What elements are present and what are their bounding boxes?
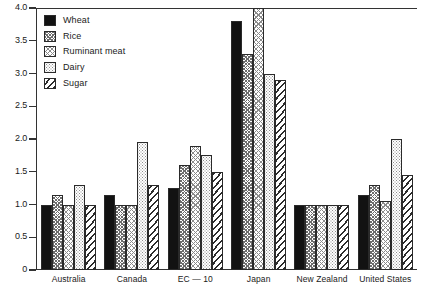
bar-group xyxy=(290,8,353,270)
y-tick-label: 2.0 xyxy=(15,132,27,145)
legend-label: Ruminant meat xyxy=(63,46,125,57)
bar-group-bars xyxy=(227,8,290,270)
x-axis-label: Japan xyxy=(227,274,290,285)
legend-swatch-ruminant-meat xyxy=(44,46,56,57)
y-tick-mark xyxy=(29,40,36,41)
bar-group xyxy=(354,8,417,270)
y-tick-mark xyxy=(29,73,36,74)
bar xyxy=(212,172,223,270)
y-tick-mark xyxy=(29,7,36,8)
bar-group xyxy=(227,8,290,270)
legend-item: Rice xyxy=(44,29,125,45)
bar xyxy=(137,142,148,270)
bar xyxy=(275,80,286,270)
y-tick-mark xyxy=(29,138,36,139)
y-tick-label: 0.5 xyxy=(15,230,27,243)
x-axis-label: New Zealand xyxy=(290,274,353,285)
bar xyxy=(380,201,391,270)
legend-label: Dairy xyxy=(63,62,85,73)
bar xyxy=(327,205,338,271)
bar xyxy=(74,185,85,270)
bar xyxy=(294,205,305,271)
bar xyxy=(253,8,264,270)
bar xyxy=(231,21,242,270)
y-tick-mark xyxy=(29,237,36,238)
bar-chart: 00.51.01.52.02.53.03.54.0 AustraliaCanad… xyxy=(0,0,421,291)
legend-label: Sugar xyxy=(63,78,88,89)
chart-legend: WheatRiceRuminant meatDairySugar xyxy=(44,13,125,91)
y-tick-label: 3.0 xyxy=(15,67,27,80)
bar xyxy=(338,205,349,271)
bar xyxy=(305,205,316,271)
bar xyxy=(126,205,137,271)
legend-label: Rice xyxy=(63,31,81,42)
y-tick-mark xyxy=(29,106,36,107)
bar xyxy=(316,205,327,271)
legend-item: Sugar xyxy=(44,75,125,91)
bar xyxy=(115,205,126,271)
x-axis-label: EC — 10 xyxy=(164,274,227,285)
y-tick-label: 1.0 xyxy=(15,198,27,211)
bar xyxy=(369,185,380,270)
legend-item: Ruminant meat xyxy=(44,44,125,60)
bar-group xyxy=(164,8,227,270)
bar xyxy=(85,205,96,271)
bar-group-bars xyxy=(290,8,353,270)
legend-swatch-rice xyxy=(44,31,56,42)
bar-group-bars xyxy=(354,8,417,270)
legend-swatch-dairy xyxy=(44,62,56,73)
x-axis-label: United States xyxy=(354,274,417,285)
bar xyxy=(190,146,201,270)
bar xyxy=(242,54,253,270)
legend-label: Wheat xyxy=(63,15,90,26)
y-tick-label: 1.5 xyxy=(15,165,27,178)
bar xyxy=(104,195,115,270)
legend-swatch-sugar xyxy=(44,78,56,89)
bar xyxy=(201,155,212,270)
bar xyxy=(52,195,63,270)
x-axis-label: Australia xyxy=(37,274,100,285)
y-tick-label: 3.5 xyxy=(15,34,27,47)
y-tick-label: 2.5 xyxy=(15,99,27,112)
bar xyxy=(179,165,190,270)
bar xyxy=(63,205,74,271)
bar xyxy=(402,175,413,270)
legend-item: Dairy xyxy=(44,60,125,76)
x-axis-label: Canada xyxy=(100,274,163,285)
bar xyxy=(41,205,52,271)
bar-group-bars xyxy=(164,8,227,270)
y-tick-mark xyxy=(29,269,36,270)
bar xyxy=(391,139,402,270)
y-tick-label: 0 xyxy=(22,263,27,276)
legend-item: Wheat xyxy=(44,13,125,29)
legend-swatch-wheat xyxy=(44,15,56,26)
bar xyxy=(168,188,179,270)
bar xyxy=(358,195,369,270)
bar xyxy=(264,74,275,271)
y-tick-mark xyxy=(29,171,36,172)
y-tick-mark xyxy=(29,204,36,205)
bar xyxy=(148,185,159,270)
y-tick-label: 4.0 xyxy=(15,1,27,14)
